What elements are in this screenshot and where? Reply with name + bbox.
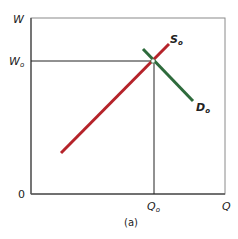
supply-curve-subscript: o xyxy=(178,39,183,47)
quantity-equilibrium-label: Qo xyxy=(147,200,160,214)
wage-equilibrium-label: Wo xyxy=(9,55,24,69)
panel-label: (a) xyxy=(124,217,138,228)
quantity-equilibrium-subscript: o xyxy=(156,206,160,214)
labor-market-chart: W Wo 0 Qo Q So Do (a) xyxy=(0,0,238,239)
supply-curve-label: So xyxy=(170,33,183,47)
demand-curve-label: Do xyxy=(196,101,210,115)
y-axis-label: W xyxy=(13,13,25,26)
demand-curve-subscript: o xyxy=(205,107,210,115)
demand-curve xyxy=(143,49,193,101)
x-axis-label: Q xyxy=(222,200,231,213)
origin-label: 0 xyxy=(18,188,25,201)
equilibrium-point xyxy=(151,59,155,63)
wage-equilibrium-subscript: o xyxy=(20,61,24,69)
